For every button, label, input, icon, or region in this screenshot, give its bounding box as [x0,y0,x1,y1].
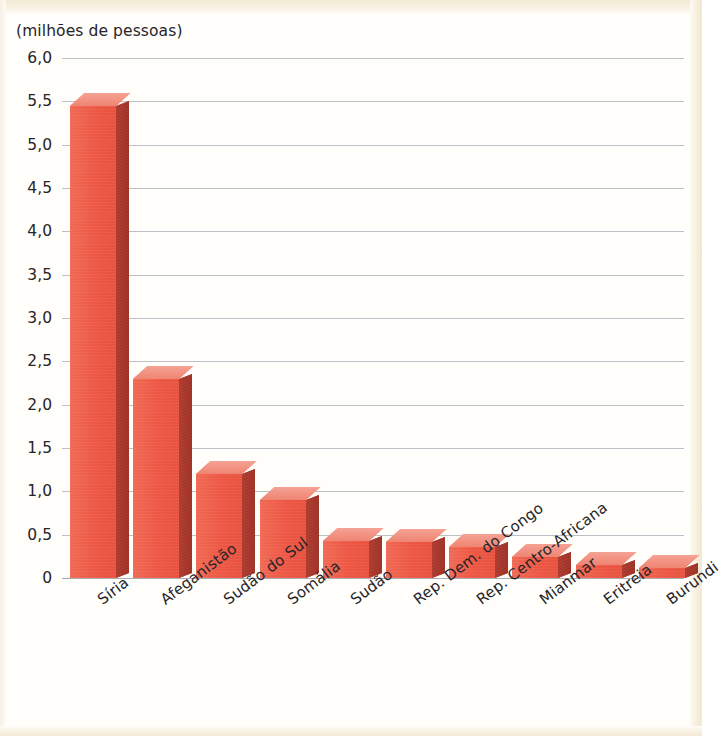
y-axis-tick-label: 5,0 [0,136,52,154]
bar-front-face [70,106,116,578]
y-axis-tick-label: 5,5 [0,92,52,110]
y-axis-tick-label: 0 [0,569,52,587]
bar-1 [70,106,116,578]
bar-6 [386,542,432,578]
bar-front-face [133,379,179,578]
bar-front-face [386,542,432,578]
gridline [62,231,684,232]
y-axis-tick-label: 3,0 [0,309,52,327]
y-axis-tick-label: 2,0 [0,396,52,414]
y-axis-tick-label: 4,0 [0,222,52,240]
y-axis-tick-label: 3,5 [0,266,52,284]
y-axis-tick-label: 1,0 [0,482,52,500]
gridline [62,58,684,59]
bar-2 [133,379,179,578]
y-axis-tick-label: 2,5 [0,352,52,370]
gridline [62,145,684,146]
bar-side-face [116,101,129,578]
y-axis-tick-label: 4,5 [0,179,52,197]
gridline [62,361,684,362]
y-axis-tick-label: 0,5 [0,526,52,544]
y-axis-tick-label: 1,5 [0,439,52,457]
gridline [62,188,684,189]
bar-side-face [306,495,319,578]
gridline [62,318,684,319]
gridline [62,101,684,102]
bar-side-face [242,469,255,578]
y-axis-tick-label: 6,0 [0,49,52,67]
gridline [62,275,684,276]
bar-side-face [179,374,192,578]
